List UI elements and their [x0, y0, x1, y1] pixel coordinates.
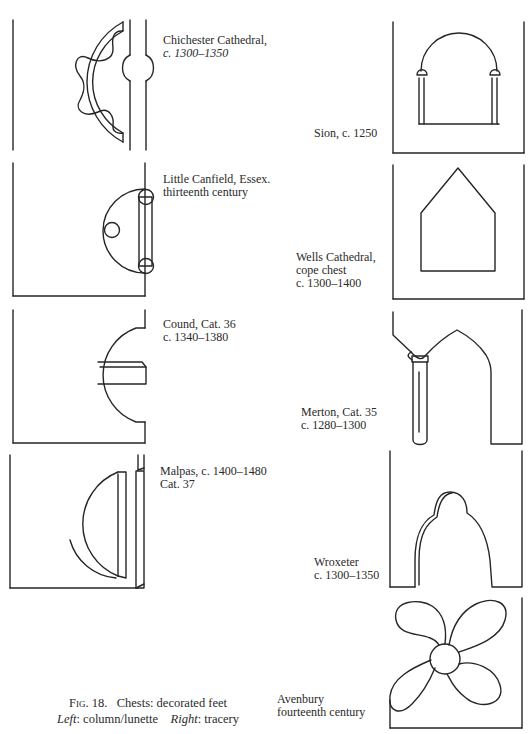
figure-caption: Fig. 18. Chests: decorated feet Left: co…: [0, 695, 298, 727]
little-canfield-foot-drawing: [13, 163, 154, 296]
figure-title-line: Fig. 18. Chests: decorated feet: [0, 695, 298, 711]
caption-wroxeter: Wroxeter c. 1300–1350: [314, 556, 379, 582]
legend-right-value: : tracery: [198, 712, 239, 726]
caption-catalogue: Cat. 37: [160, 478, 267, 491]
legend-right-label: Right: [171, 712, 198, 726]
caption-date: c. 1280–1300: [301, 419, 377, 432]
chichester-foot-drawing: [13, 20, 154, 150]
sion-foot-drawing: [393, 22, 524, 153]
caption-cound: Cound, Cat. 36 c. 1340–1380: [163, 318, 236, 344]
caption-date: c. 1300–1350: [314, 569, 379, 582]
caption-chichester: Chichester Cathedral, c. 1300–1350: [163, 34, 267, 60]
caption-sion: Sion, c. 1250: [314, 127, 377, 140]
figure-drawings: [0, 0, 532, 734]
wells-foot-drawing: [393, 165, 524, 299]
caption-little-canfield: Little Canfield, Essex. thirteenth centu…: [163, 173, 270, 199]
caption-line: Sion, c. 1250: [314, 127, 377, 140]
caption-date: c. 1300–1400: [296, 277, 376, 290]
caption-merton: Merton, Cat. 35 c. 1280–1300: [301, 406, 377, 432]
figure-number: Fig. 18.: [69, 696, 107, 710]
caption-date: c. 1300–1350: [163, 47, 267, 60]
caption-date: c. 1340–1380: [163, 331, 236, 344]
merton-foot-drawing: [393, 310, 522, 445]
wroxeter-foot-drawing: [390, 451, 522, 587]
legend-left-value: : column/lunette: [76, 712, 158, 726]
cound-foot-drawing: [13, 310, 146, 443]
figure-title: Chests: decorated feet: [117, 696, 227, 710]
legend-left-label: Left: [57, 712, 76, 726]
malpas-foot-drawing: [10, 455, 144, 588]
avenbury-foot-drawing: [390, 598, 522, 728]
caption-malpas: Malpas, c. 1400–1480 Cat. 37: [160, 465, 267, 491]
caption-date: thirteenth century: [163, 186, 270, 199]
figure-legend-line: Left: column/lunette Right: tracery: [0, 711, 298, 727]
caption-wells: Wells Cathedral, cope chest c. 1300–1400: [296, 251, 376, 290]
